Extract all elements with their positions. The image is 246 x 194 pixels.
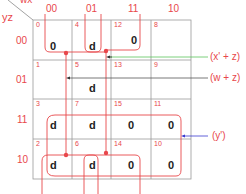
kmap-cell: 9 xyxy=(151,60,190,99)
col-header-10: 10 xyxy=(168,3,179,14)
row-var-label: yz xyxy=(2,11,13,23)
kmap-cell: 13 xyxy=(111,60,150,99)
col-var-label: wx xyxy=(20,0,32,5)
term-label-y-prime: (y') xyxy=(212,130,226,141)
kmap-cell: 7d xyxy=(72,99,111,138)
kmap-cell: 1 xyxy=(33,60,72,99)
col-header-00: 00 xyxy=(46,3,57,14)
kmap-cell: 110 xyxy=(151,99,190,138)
kmap-cell: 4d xyxy=(72,20,111,59)
kmap-cell: 6d xyxy=(72,139,111,178)
row-header-10: 10 xyxy=(17,154,28,165)
kmap-cell: 8 xyxy=(151,20,190,59)
kmap-cell: 120 xyxy=(111,20,150,59)
row-header-11: 11 xyxy=(17,114,27,125)
term-label-w-z: (w + z) xyxy=(210,72,240,83)
term-label-x-prime-z: (x' + z) xyxy=(210,51,240,62)
kmap-cell: 5d xyxy=(72,60,111,99)
col-header-11: 11 xyxy=(128,3,138,14)
kmap-cell: 150 xyxy=(111,99,150,138)
row-header-01: 01 xyxy=(16,74,27,85)
kmap-cell: 140 xyxy=(111,139,150,178)
col-header-01: 01 xyxy=(86,3,97,14)
kmap-cell: 2d xyxy=(33,139,72,178)
kmap-cell: 3d xyxy=(33,99,72,138)
row-header-00: 00 xyxy=(16,35,27,46)
kmap-cell: 00 xyxy=(33,20,72,59)
kmap-cell: 100 xyxy=(151,139,190,178)
